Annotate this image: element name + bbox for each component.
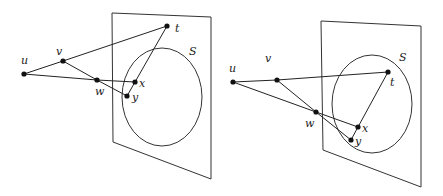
node-label-t: t	[175, 22, 180, 35]
diagram-left: Suvwxyt	[21, 13, 211, 179]
node-w	[94, 77, 99, 82]
node-x	[132, 79, 137, 84]
node-u	[230, 79, 235, 84]
diagram-right: Suvwxyt	[229, 21, 421, 187]
edge-x-t	[135, 26, 167, 82]
node-label-w: w	[305, 117, 315, 130]
edge-u-w	[24, 74, 97, 80]
edge-x-t	[358, 72, 388, 127]
edge-v-t	[277, 72, 388, 80]
edge-w-x	[97, 80, 135, 82]
node-x	[355, 124, 360, 129]
node-label-v: v	[56, 45, 63, 58]
node-label-w: w	[95, 85, 105, 98]
node-u	[21, 71, 26, 76]
node-t	[164, 23, 169, 28]
edge-v-w	[277, 80, 316, 112]
node-label-x: x	[139, 77, 146, 90]
node-y	[124, 93, 129, 98]
node-label-y: y	[354, 135, 362, 148]
edge-u-w	[233, 82, 316, 112]
node-t	[385, 69, 390, 74]
node-label-u: u	[21, 54, 28, 67]
node-y	[348, 137, 353, 142]
node-label-v: v	[265, 52, 272, 65]
node-label-u: u	[229, 62, 236, 75]
node-label-x: x	[362, 122, 369, 135]
graph-diagrams: SuvwxytSuvwxyt	[0, 0, 443, 196]
node-w	[313, 109, 318, 114]
node-label-t: t	[390, 76, 395, 89]
node-v	[274, 77, 279, 82]
edge-v-t	[63, 26, 167, 61]
edge-u-v	[24, 61, 63, 74]
node-v	[60, 58, 65, 63]
set-label: S	[399, 51, 407, 64]
set-label: S	[189, 45, 197, 58]
node-label-y: y	[131, 91, 139, 104]
edge-u-v	[233, 80, 277, 82]
set-s-region	[332, 55, 412, 153]
